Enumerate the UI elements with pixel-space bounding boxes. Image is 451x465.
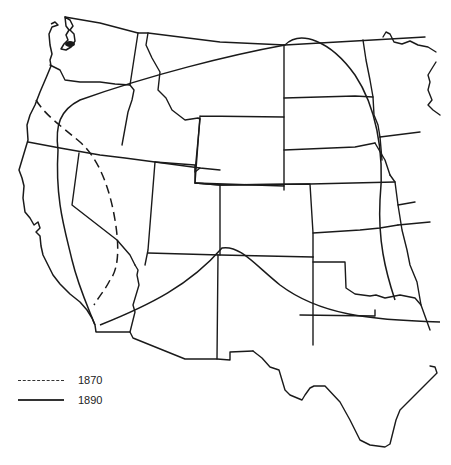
wyoming-border	[195, 116, 284, 186]
legend-label: 1870	[78, 374, 102, 386]
frontier-line-1870	[36, 100, 118, 305]
solid-line-icon	[18, 399, 64, 401]
texas-border	[253, 351, 437, 447]
puget-sound	[61, 17, 75, 50]
nevada-border	[72, 153, 135, 265]
legend: 1870 1890	[18, 370, 148, 410]
dakota-border	[284, 96, 373, 98]
az-nm-border	[217, 255, 218, 359]
dashed-line-icon	[18, 380, 64, 381]
northern-border	[138, 33, 425, 45]
legend-item-1890: 1890	[18, 390, 148, 410]
washington-border	[50, 17, 138, 85]
legend-label: 1890	[78, 394, 102, 406]
legend-item-1870: 1870	[18, 370, 148, 390]
